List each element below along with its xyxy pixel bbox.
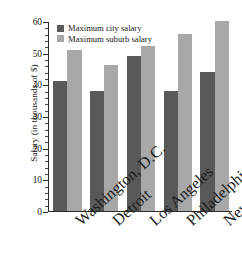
y-tick-minor bbox=[45, 35, 48, 36]
y-tick-minor bbox=[45, 168, 48, 169]
y-tick-minor bbox=[45, 41, 48, 42]
legend-label-city: Maximum city salary bbox=[68, 24, 142, 33]
bar-chart: Salary (in thousands of $) 0102030405060… bbox=[0, 0, 242, 268]
y-tick-label: 30 bbox=[33, 112, 42, 122]
legend-swatch-suburb bbox=[57, 35, 64, 42]
y-tick-label: 20 bbox=[33, 144, 42, 154]
x-tick-label: Philadelphia bbox=[183, 216, 195, 229]
y-tick-label: 50 bbox=[33, 49, 42, 59]
y-tick-minor bbox=[45, 28, 48, 29]
y-tick-minor bbox=[45, 47, 48, 48]
y-tick-major bbox=[43, 54, 48, 55]
x-tick-label: New York bbox=[220, 216, 232, 229]
y-tick-major bbox=[43, 22, 48, 23]
bar-suburb bbox=[67, 50, 81, 212]
y-tick-minor bbox=[45, 79, 48, 80]
y-tick-minor bbox=[45, 60, 48, 61]
y-tick-minor bbox=[45, 142, 48, 143]
legend-label-suburb: Maximum suburb salary bbox=[68, 35, 152, 44]
x-tick-label: Washington, D.C. bbox=[72, 216, 84, 229]
y-tick-major bbox=[43, 85, 48, 86]
y-tick-minor bbox=[45, 123, 48, 124]
y-tick-label: 10 bbox=[33, 175, 42, 185]
y-tick-minor bbox=[45, 174, 48, 175]
y-tick-label: 60 bbox=[33, 17, 42, 27]
bar-group bbox=[49, 22, 86, 211]
legend-item-city: Maximum city salary bbox=[57, 24, 152, 33]
y-tick-major bbox=[43, 212, 48, 213]
x-tick-label: Detroit bbox=[109, 216, 121, 229]
y-tick-major bbox=[43, 149, 48, 150]
y-tick-minor bbox=[45, 136, 48, 137]
y-tick-major bbox=[43, 180, 48, 181]
bar-city bbox=[53, 81, 67, 211]
y-tick-label: 40 bbox=[33, 80, 42, 90]
y-tick-minor bbox=[45, 130, 48, 131]
y-tick-minor bbox=[45, 206, 48, 207]
y-tick-minor bbox=[45, 193, 48, 194]
y-tick-major bbox=[43, 117, 48, 118]
y-tick-minor bbox=[45, 155, 48, 156]
y-tick-minor bbox=[45, 73, 48, 74]
y-tick-minor bbox=[45, 98, 48, 99]
y-tick-minor bbox=[45, 199, 48, 200]
y-tick-minor bbox=[45, 92, 48, 93]
y-tick-minor bbox=[45, 187, 48, 188]
legend: Maximum city salary Maximum suburb salar… bbox=[57, 24, 152, 43]
x-tick-label: Los Angeles bbox=[146, 216, 158, 229]
y-tick-minor bbox=[45, 66, 48, 67]
x-axis-labels: Washington, D.C.DetroitLos AngelesPhilad… bbox=[48, 214, 232, 268]
y-tick-minor bbox=[45, 104, 48, 105]
y-tick-minor bbox=[45, 111, 48, 112]
legend-swatch-city bbox=[57, 25, 64, 32]
y-tick-minor bbox=[45, 161, 48, 162]
legend-item-suburb: Maximum suburb salary bbox=[57, 35, 152, 44]
y-tick-label: 0 bbox=[37, 207, 42, 217]
